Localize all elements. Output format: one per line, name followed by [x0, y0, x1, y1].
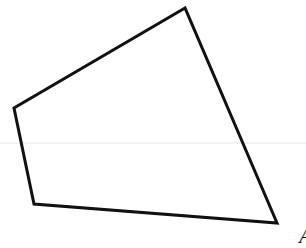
diagram-svg: [0, 0, 306, 248]
vertex-label-a: A: [299, 225, 306, 247]
diagram-canvas: A: [0, 0, 306, 248]
quadrilateral-shape: [14, 8, 277, 223]
